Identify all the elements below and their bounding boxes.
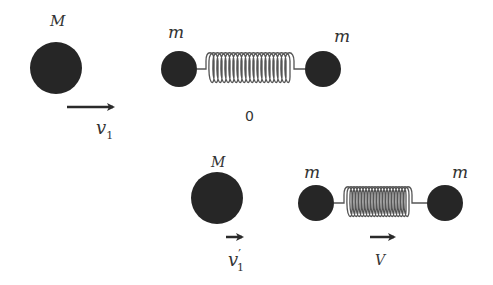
velocity-label-after: v′1 [228, 248, 244, 274]
right-mass-label: m [334, 26, 350, 46]
big-mass-label: M [49, 12, 66, 30]
right-mass-label-after: m [452, 162, 468, 182]
collision-diagram: M v1 m m 0 M v′1 m m V [0, 0, 493, 285]
spring-icon [197, 53, 305, 83]
state-label: 0 [245, 108, 254, 124]
spring-after-icon [334, 187, 427, 217]
before-state: M v1 m m 0 [30, 12, 350, 142]
left-mass-label-after: m [304, 162, 320, 182]
left-small-ball [161, 51, 197, 87]
system-velocity-label: V [375, 252, 387, 268]
velocity-label: v1 [96, 117, 113, 142]
left-mass-label: m [168, 22, 184, 42]
big-mass-ball-after [191, 172, 243, 224]
after-state: M v′1 m m V [191, 154, 468, 274]
left-small-ball-after [298, 185, 334, 221]
right-small-ball [305, 51, 341, 87]
right-small-ball-after [427, 185, 463, 221]
big-mass-ball [30, 42, 82, 94]
big-mass-label-after: M [210, 154, 226, 170]
